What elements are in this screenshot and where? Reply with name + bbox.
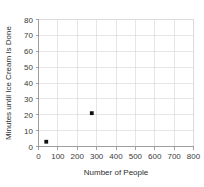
chart-canvas: 0100200300400500600700800 01020304050607…: [0, 0, 204, 187]
x-tick-label: 100: [51, 152, 65, 161]
x-tick-label: 800: [187, 152, 201, 161]
y-axis-tick-marks: [36, 20, 39, 147]
y-axis-tick-labels: 01020304050607080: [24, 16, 33, 152]
x-axis-tick-labels: 0100200300400500600700800: [36, 152, 200, 161]
y-tick-label: 60: [24, 47, 33, 56]
y-tick-label: 70: [24, 31, 33, 40]
data-point-marker: [90, 111, 94, 115]
x-tick-label: 600: [148, 152, 162, 161]
y-tick-label: 0: [29, 143, 34, 152]
y-tick-label: 20: [24, 111, 33, 120]
x-tick-label: 0: [36, 152, 41, 161]
data-points: [44, 111, 93, 143]
scatter-chart: 0100200300400500600700800 01020304050607…: [0, 0, 204, 187]
x-tick-label: 400: [109, 152, 123, 161]
y-tick-label: 30: [24, 95, 33, 104]
y-tick-label: 50: [24, 63, 33, 72]
x-tick-label: 300: [90, 152, 104, 161]
y-tick-label: 80: [24, 16, 33, 25]
x-tick-label: 700: [167, 152, 181, 161]
y-axis-title: Minutes until Ice Cream Is Done: [4, 26, 13, 140]
x-tick-label: 200: [71, 152, 85, 161]
data-point-marker: [44, 140, 48, 144]
x-tick-label: 500: [129, 152, 143, 161]
y-tick-label: 10: [24, 127, 33, 136]
y-tick-label: 40: [24, 79, 33, 88]
x-axis-title: Number of People: [84, 168, 149, 177]
x-axis-tick-marks: [39, 147, 194, 150]
